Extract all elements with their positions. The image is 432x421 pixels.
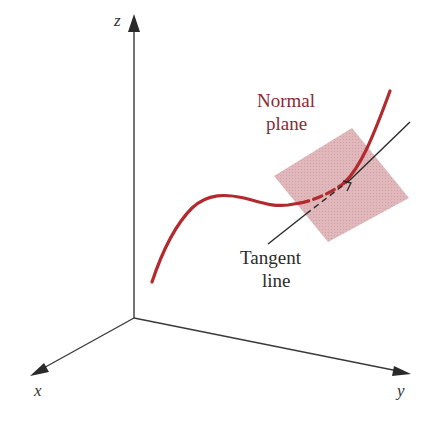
y-axis: [134, 318, 398, 371]
x-axis: [40, 318, 134, 370]
tangent-label-2: line: [262, 270, 291, 291]
y-axis-label: y: [395, 381, 405, 400]
normal-plane-label-1: Normal: [257, 90, 315, 111]
z-arrow-icon: [128, 14, 140, 32]
z-axis-label: z: [113, 11, 121, 30]
space-curve-diagram: z x y Normal plane Tangent line: [0, 0, 432, 421]
x-axis-label: x: [33, 381, 42, 400]
y-arrow-icon: [392, 366, 411, 376]
tangent-label-1: Tangent: [240, 247, 302, 268]
x-arrow-icon: [30, 363, 49, 376]
normal-plane-label-2: plane: [266, 113, 307, 134]
